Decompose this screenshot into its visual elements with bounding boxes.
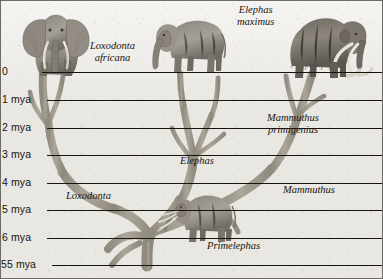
taxon-genus-text: Loxodonta (90, 40, 135, 51)
axis-tick-55mya: 55 mya (1, 258, 36, 270)
axis-tick-1mya: 1 mya (2, 93, 31, 105)
time-axis-gridlines (0, 0, 383, 279)
taxon-species-text: primigenius (268, 124, 318, 135)
taxon-label-primelephas: Primelephas (207, 240, 260, 252)
axis-tick-3mya: 3 mya (2, 148, 31, 160)
axis-tick-6mya: 6 mya (2, 231, 31, 243)
taxon-genus-text: Mammuthus (267, 112, 319, 123)
axis-tick-5mya: 5 mya (2, 203, 31, 215)
taxon-label-loxodonta: Loxodonta (66, 190, 111, 202)
axis-tick-2mya: 2 mya (2, 121, 31, 133)
taxon-species-text: maximus (237, 16, 274, 27)
taxon-genus-text: Elephas (239, 4, 273, 15)
axis-tick-0: 0 (2, 65, 8, 77)
taxon-label-elephas-maximus: Elephas maximus (237, 4, 274, 27)
taxon-label-mammuthus: Mammuthus (283, 184, 335, 196)
taxon-species-text: africana (95, 52, 131, 63)
phylogeny-figure: 0 1 mya 2 mya 3 mya 4 mya 5 mya 6 mya 55… (0, 0, 383, 279)
axis-tick-4mya: 4 mya (2, 176, 31, 188)
taxon-label-loxodonta-africana: Loxodonta africana (90, 40, 135, 63)
taxon-label-mammuthus-primigenius: Mammuthus primigenius (267, 112, 319, 135)
taxon-label-elephas: Elephas (180, 155, 214, 167)
